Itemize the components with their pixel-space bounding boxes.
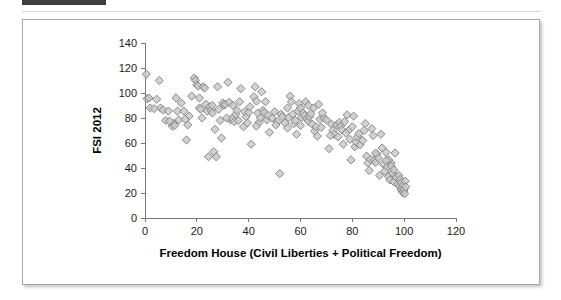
data-point xyxy=(247,140,255,148)
data-point xyxy=(276,170,284,178)
y-tick-label: 140 xyxy=(119,37,137,49)
data-point xyxy=(211,125,219,133)
y-tick-label: 0 xyxy=(131,212,137,224)
data-points xyxy=(142,70,410,198)
y-tick-label: 20 xyxy=(125,187,137,199)
data-point xyxy=(391,149,399,157)
data-point xyxy=(182,136,190,144)
x-tick-label: 80 xyxy=(346,225,358,237)
x-tick-label: 20 xyxy=(191,225,203,237)
data-point xyxy=(195,94,203,102)
data-point xyxy=(365,166,373,174)
y-tick-label: 120 xyxy=(119,62,137,74)
x-axis-title: Freedom House (Civil Liberties + Politic… xyxy=(159,247,441,259)
y-tick-label: 100 xyxy=(119,87,137,99)
data-point xyxy=(258,88,266,96)
x-tick-label: 60 xyxy=(294,225,306,237)
data-point xyxy=(217,134,225,142)
x-tick-label: 120 xyxy=(447,225,465,237)
data-point xyxy=(251,83,259,91)
data-point xyxy=(369,131,377,139)
data-point xyxy=(350,112,358,120)
data-point xyxy=(339,140,347,148)
chart-canvas: 020406080100120140020406080100120 Freedo… xyxy=(23,20,541,286)
y-tick-label: 60 xyxy=(125,137,137,149)
y-tick-label: 80 xyxy=(125,112,137,124)
scatter-chart: 020406080100120140020406080100120 Freedo… xyxy=(23,20,541,286)
data-point xyxy=(224,78,232,86)
data-point xyxy=(155,76,163,84)
x-tick-label: 0 xyxy=(142,225,148,237)
top-progress-bar xyxy=(22,0,106,5)
y-axis-title: FSI 2012 xyxy=(91,107,103,154)
x-tick-label: 40 xyxy=(243,225,255,237)
data-point xyxy=(153,95,161,103)
data-point xyxy=(325,145,333,153)
y-tick-label: 40 xyxy=(125,162,137,174)
data-point xyxy=(368,125,376,133)
data-point xyxy=(188,92,196,100)
header-divider xyxy=(22,11,541,12)
data-point xyxy=(293,130,301,138)
data-point xyxy=(237,85,245,93)
data-point xyxy=(347,156,355,164)
figure-card: 020406080100120140020406080100120 Freedo… xyxy=(22,19,540,285)
x-tick-label: 100 xyxy=(395,225,413,237)
data-point xyxy=(377,130,385,138)
data-point xyxy=(213,83,221,91)
data-point xyxy=(198,114,206,122)
data-point xyxy=(361,120,369,128)
axes xyxy=(145,43,456,218)
data-point xyxy=(261,98,269,106)
data-point xyxy=(265,128,273,136)
data-point xyxy=(142,70,150,78)
axis-ticks: 020406080100120140020406080100120 xyxy=(119,37,466,237)
